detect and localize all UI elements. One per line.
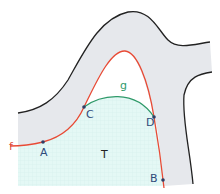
point-A: [41, 140, 45, 144]
label-T: T: [100, 148, 108, 161]
label-A: A: [40, 146, 48, 159]
label-D: D: [146, 116, 154, 129]
point-B: [161, 178, 165, 182]
label-g: g: [120, 79, 127, 92]
diagram: f A C g D T B: [0, 0, 220, 194]
label-B: B: [150, 172, 158, 185]
label-C: C: [86, 108, 94, 121]
